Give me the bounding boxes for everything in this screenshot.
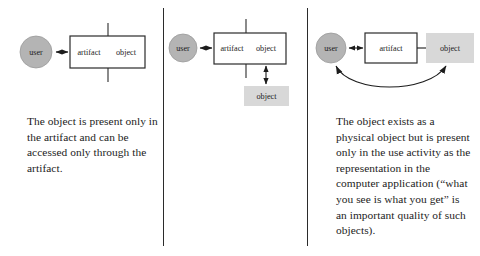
panel-3-diagram: user artifact object (310, 0, 480, 110)
panel-3-artifact-label: artifact (379, 44, 403, 53)
panel-2-artifact-label: artifact (220, 44, 244, 53)
panel-1-artifact-label: artifact (77, 48, 101, 57)
panel-1-user-label: user (29, 48, 43, 57)
panel-2-user-label: user (176, 44, 190, 53)
panel-3: user artifact object The object is physi… (310, 0, 480, 256)
panel-3-object-label: object (440, 44, 461, 53)
panel-1-object-label: object (116, 48, 137, 57)
panel-2-physical-object-label: object (256, 92, 277, 101)
panel-2: user artifact object object The object e… (166, 0, 310, 256)
panel-3-user-label: user (324, 44, 338, 53)
panel-2-diagram: user artifact object object (166, 0, 310, 110)
figure-canvas: user artifact object The object is prese… (0, 0, 480, 256)
panel-1-caption: The object is present only in the artifa… (27, 114, 161, 176)
panel-1: user artifact object The object is prese… (0, 0, 166, 256)
panel-1-diagram: user artifact object (0, 0, 166, 110)
panel-2-object-label: object (256, 44, 277, 53)
panel-3-user-object-curve-arrow (336, 66, 446, 87)
